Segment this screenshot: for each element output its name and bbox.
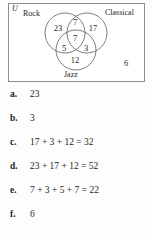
option-value-f: 6 xyxy=(30,210,35,220)
region-count-rock-only: 23 xyxy=(54,24,63,33)
option-row-b[interactable]: b. 3 xyxy=(0,110,152,134)
option-letter-f: f. xyxy=(10,210,16,220)
region-count-rock-jazz-only: 5 xyxy=(62,44,66,53)
option-value-d: 23 + 17 + 12 = 52 xyxy=(30,162,98,172)
option-row-a[interactable]: a. 23 xyxy=(0,86,152,110)
option-value-e: 7 + 3 + 5 + 7 = 22 xyxy=(30,186,99,196)
option-row-c[interactable]: c. 17 + 3 + 12 = 32 xyxy=(0,134,152,158)
option-row-d[interactable]: d. 23 + 17 + 12 = 52 xyxy=(0,158,152,182)
option-row-e[interactable]: e. 7 + 3 + 5 + 7 = 22 xyxy=(0,182,152,206)
answer-options-list: a. 23 b. 3 c. 17 + 3 + 12 = 32 d. 23 + 1… xyxy=(0,86,152,230)
region-count-all-three: 7 xyxy=(73,34,77,43)
region-count-classical-jazz-only: 3 xyxy=(84,44,88,53)
classical-label: Classical xyxy=(105,9,134,17)
option-letter-b: b. xyxy=(10,114,18,124)
venn-diagram-figure: U Rock Classical Jazz 23 7 17 7 5 3 12 6 xyxy=(8,3,145,82)
region-count-classical-only: 17 xyxy=(89,24,98,33)
option-letter-c: c. xyxy=(10,138,17,148)
region-count-jazz-only: 12 xyxy=(71,56,80,65)
option-value-a: 23 xyxy=(30,90,40,100)
option-row-f[interactable]: f. 6 xyxy=(0,206,152,230)
option-letter-e: e. xyxy=(10,186,17,196)
region-count-rock-classical-only: 7 xyxy=(73,18,77,27)
region-count-outside-all: 6 xyxy=(124,59,128,68)
option-value-c: 17 + 3 + 12 = 32 xyxy=(30,138,94,148)
jazz-label: Jazz xyxy=(64,71,78,79)
rock-label: Rock xyxy=(23,10,40,18)
option-letter-d: d. xyxy=(10,162,18,172)
option-value-b: 3 xyxy=(30,114,35,124)
option-letter-a: a. xyxy=(10,90,17,100)
universal-set-symbol: U xyxy=(12,5,18,13)
